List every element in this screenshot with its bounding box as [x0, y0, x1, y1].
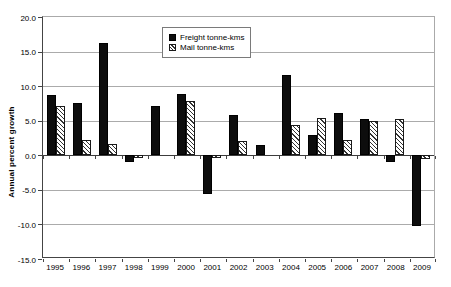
x-tick-label-2005: 2005 — [304, 263, 330, 272]
x-axis-tickmark — [122, 259, 123, 262]
bar-group-1997 — [95, 17, 121, 257]
x-tick-label-2009: 2009 — [409, 263, 435, 272]
y-tick-label: 0.0 — [25, 151, 36, 160]
bar-group-2009 — [408, 17, 434, 257]
bar-group-1995 — [43, 17, 69, 257]
y-axis-tickmark — [38, 155, 42, 156]
x-tick-label-2002: 2002 — [225, 263, 251, 272]
x-tick-label-1995: 1995 — [42, 263, 68, 272]
mail-bar-1997 — [108, 144, 117, 156]
y-axis-tickmark — [38, 86, 42, 87]
y-tick-label: 5.0 — [25, 117, 36, 126]
x-axis-tickmark — [200, 259, 201, 262]
mail-bar-1996 — [82, 140, 91, 155]
legend-item-freight: Freight tonne-kms — [169, 33, 244, 42]
mail-bar-2008 — [395, 119, 404, 156]
freight-bar-1997 — [99, 43, 108, 155]
freight-bar-1995 — [47, 95, 56, 155]
bar-group-2004 — [278, 17, 304, 257]
x-tick-label-2008: 2008 — [383, 263, 409, 272]
y-axis-tickmark — [38, 224, 42, 225]
mail-swatch-icon — [169, 44, 176, 51]
freight-bar-2008 — [386, 155, 395, 162]
freight-bar-2004 — [282, 75, 291, 155]
mail-bar-2007 — [369, 121, 378, 156]
mail-bar-2002 — [238, 141, 247, 155]
y-axis-tickmark — [38, 190, 42, 191]
y-tick-label: 20.0 — [20, 13, 36, 22]
freight-bar-1996 — [73, 103, 82, 155]
x-axis-labels: 1995199619971998199920002001200220032004… — [42, 263, 435, 272]
y-tick-label: -15.0 — [18, 255, 36, 264]
x-tick-label-1996: 1996 — [68, 263, 94, 272]
mail-bar-2005 — [317, 118, 326, 155]
freight-bar-2001 — [203, 155, 212, 194]
freight-bar-1998 — [125, 155, 134, 161]
x-axis-tickmark — [69, 259, 70, 262]
x-tick-label-1998: 1998 — [121, 263, 147, 272]
legend-item-mail: Mail tonne-kms — [169, 43, 244, 52]
y-axis-tickmark — [38, 52, 42, 53]
y-axis-tickmark — [38, 259, 42, 260]
bar-chart: Annual percent growth Freight tonne-kms … — [0, 0, 451, 287]
x-axis-tickmark — [253, 259, 254, 262]
bar-group-2007 — [356, 17, 382, 257]
x-axis-tickmark — [357, 259, 358, 262]
y-tick-label: 10.0 — [20, 82, 36, 91]
x-axis-tickmark — [95, 259, 96, 262]
x-axis-tickmark — [435, 156, 436, 159]
bar-group-2008 — [382, 17, 408, 257]
x-axis-tickmark — [279, 259, 280, 262]
x-axis-tickmark — [384, 259, 385, 262]
legend-label-freight: Freight tonne-kms — [180, 33, 244, 42]
bar-group-1998 — [121, 17, 147, 257]
x-axis-tickmark — [410, 259, 411, 262]
x-axis-tickmark — [305, 259, 306, 262]
mail-bar-1995 — [56, 106, 65, 155]
x-tick-label-2004: 2004 — [278, 263, 304, 272]
freight-bar-1999 — [151, 106, 160, 156]
mail-bar-2001 — [212, 155, 221, 158]
mail-bar-2006 — [343, 140, 352, 155]
y-axis-title: Annual percent growth — [7, 106, 16, 197]
bar-group-2006 — [330, 17, 356, 257]
bar-group-1996 — [69, 17, 95, 257]
freight-swatch-icon — [169, 34, 176, 41]
mail-bar-2009 — [421, 155, 430, 158]
x-axis-tickmark — [331, 259, 332, 262]
y-tick-label: -5.0 — [22, 186, 36, 195]
x-axis-tickmark — [174, 259, 175, 262]
freight-bar-2002 — [229, 115, 238, 155]
y-tick-label: 15.0 — [20, 48, 36, 57]
x-axis-tickmark — [226, 259, 227, 262]
freight-bar-2007 — [360, 119, 369, 155]
x-tick-label-2007: 2007 — [356, 263, 382, 272]
x-tick-label-2001: 2001 — [199, 263, 225, 272]
x-tick-label-2006: 2006 — [330, 263, 356, 272]
y-axis-tickmark — [38, 121, 42, 122]
y-tick-label: -10.0 — [18, 220, 36, 229]
freight-bar-2003 — [256, 145, 265, 155]
x-tick-label-1999: 1999 — [147, 263, 173, 272]
mail-bar-1998 — [134, 155, 143, 158]
legend-label-mail: Mail tonne-kms — [180, 43, 234, 52]
freight-bar-2005 — [308, 135, 317, 155]
x-axis-tickmark — [435, 259, 436, 262]
freight-bar-2009 — [412, 155, 421, 226]
x-axis-tickmark — [43, 259, 44, 262]
legend: Freight tonne-kms Mail tonne-kms — [162, 27, 251, 58]
freight-bar-2000 — [177, 94, 186, 155]
x-tick-label-2003: 2003 — [252, 263, 278, 272]
freight-bar-2006 — [334, 113, 343, 155]
plot-area: Freight tonne-kms Mail tonne-kms 20.015.… — [42, 16, 435, 258]
x-tick-label-1997: 1997 — [94, 263, 120, 272]
mail-bar-2004 — [291, 125, 300, 155]
bar-group-2005 — [304, 17, 330, 257]
x-axis-tickmark — [148, 259, 149, 262]
x-tick-label-2000: 2000 — [173, 263, 199, 272]
y-axis-tickmark — [38, 17, 42, 18]
mail-bar-2000 — [186, 101, 195, 155]
bar-group-2003 — [252, 17, 278, 257]
